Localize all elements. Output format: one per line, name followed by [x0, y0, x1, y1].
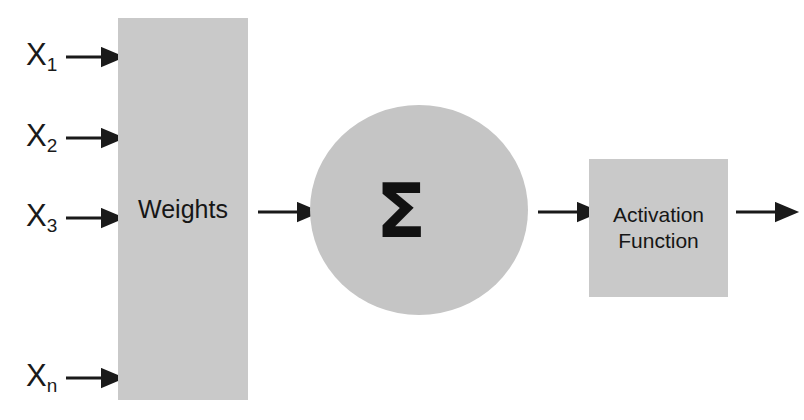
input-label-x1: X1 — [26, 39, 57, 74]
weights-block: Weights — [118, 18, 248, 400]
input-row-3: X3 — [26, 191, 57, 245]
neuron-diagram-canvas: X1 X2 X3 Xn Weights Σ Activation Functio… — [0, 0, 804, 420]
input-row-1: X1 — [26, 30, 57, 84]
weights-label: Weights — [138, 195, 228, 224]
input-row-2: X2 — [26, 111, 57, 165]
input-row-n: Xn — [26, 351, 57, 405]
input-subscript-3: 3 — [47, 216, 58, 237]
input-label-x3: X3 — [26, 200, 57, 235]
activation-label-line1: Activation — [613, 202, 704, 228]
input-label-xn: Xn — [26, 360, 57, 395]
summation-node: Σ — [310, 105, 528, 315]
input-label-x2: X2 — [26, 120, 57, 155]
activation-label-line2: Function — [613, 228, 704, 254]
activation-function-block: Activation Function — [589, 159, 728, 297]
input-subscript-n: n — [47, 376, 58, 397]
input-subscript-2: 2 — [47, 136, 58, 157]
sigma-summation-icon: Σ — [376, 174, 427, 248]
input-subscript-1: 1 — [47, 55, 58, 76]
activation-function-label: Activation Function — [613, 202, 704, 253]
